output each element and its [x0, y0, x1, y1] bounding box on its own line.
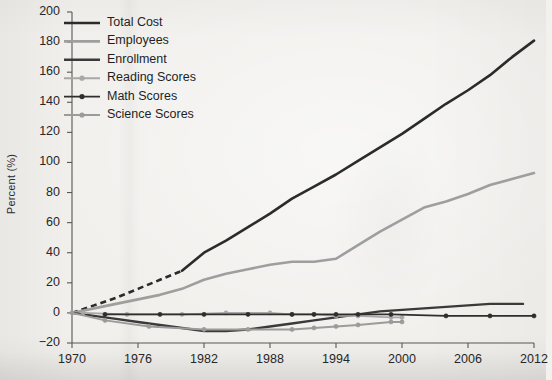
y-axis-tick-label: 60 — [20, 215, 60, 229]
y-axis-tick-label: 20 — [20, 275, 60, 289]
y-axis-tick-label: 160 — [20, 64, 60, 78]
y-axis-tick-label: 0 — [20, 305, 60, 319]
y-axis-tick-label: 80 — [20, 185, 60, 199]
y-axis-tick-label: −20 — [20, 335, 60, 349]
chart-legend — [64, 23, 100, 118]
y-axis-tick-label: 40 — [20, 245, 60, 259]
legend-item-label[interactable]: Reading Scores — [107, 70, 196, 84]
legend-item-label[interactable]: Employees — [107, 33, 169, 47]
x-axis-tick-label: 1976 — [108, 352, 168, 366]
y-axis-label: Percent (%) — [5, 139, 17, 229]
x-axis-tick-label: 1970 — [42, 352, 102, 366]
chart-series — [70, 41, 536, 332]
y-axis-tick-label: 120 — [20, 124, 60, 138]
legend-item-label[interactable]: Math Scores — [107, 89, 177, 103]
x-axis-tick-label: 2012 — [504, 352, 552, 366]
x-axis-tick-label: 1994 — [306, 352, 366, 366]
legend-item-label[interactable]: Science Scores — [107, 107, 194, 121]
x-axis-tick-label: 1988 — [240, 352, 300, 366]
x-axis-tick-label: 2000 — [372, 352, 432, 366]
y-axis-tick-label: 100 — [20, 154, 60, 168]
legend-item-label[interactable]: Enrollment — [107, 52, 167, 66]
y-axis-tick-label: 180 — [20, 34, 60, 48]
x-axis-tick-label: 1982 — [174, 352, 234, 366]
x-axis-tick-label: 2006 — [438, 352, 498, 366]
legend-item-label[interactable]: Total Cost — [107, 15, 163, 29]
y-axis-tick-label: 140 — [20, 94, 60, 108]
y-axis-tick-label: 200 — [20, 4, 60, 18]
